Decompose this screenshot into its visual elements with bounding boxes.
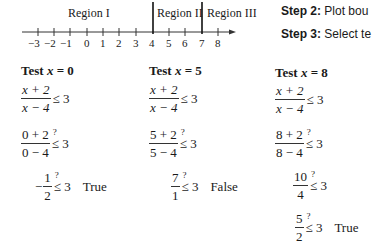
tick-label: −1 [60,37,72,49]
step-2-text: Plot bou [324,4,368,18]
step-3: Step 3: Select te [281,27,371,41]
test-column-x8: Test x = 8 x + 2x − 4 ≤ 3 8 + 28 − 4 ?≤ … [275,65,374,244]
inequality-substituted: 0 + 20 − 4 ?≤ 3 [21,127,141,160]
test-title: Test x = 0 [21,63,141,79]
tick-label: 1 [100,37,106,49]
verdict-true: True [334,220,358,236]
step-3-text: Select te [324,27,371,41]
verdict-false: False [210,179,237,195]
tick-label: 4 [149,37,155,49]
tick-label: 8 [215,37,221,49]
region-label-3: Region III [207,6,257,21]
inequality-reduced: 52 ?≤ 3 True [295,211,374,244]
step-2-label: Step 2: [281,4,321,18]
verdict-true: True [83,179,107,195]
test-column-x5: Test x = 5 x + 2x − 4 ≤ 3 5 + 25 − 4 ?≤ … [149,63,269,203]
inequality-original: x + 2x − 4 ≤ 3 [21,82,141,115]
inequality-original: x + 2x − 4 ≤ 3 [275,83,374,116]
tick-label: 2 [116,37,122,49]
tick-label: 5 [166,37,172,49]
inequality-original: x + 2x − 4 ≤ 3 [149,82,269,115]
tick-label: 6 [182,37,188,49]
test-column-x0: Test x = 0 x + 2x − 4 ≤ 3 0 + 20 − 4 ?≤ … [21,63,141,203]
inequality-simplified: 71 ?≤ 3 False [171,170,269,203]
tick-label: −2 [44,37,56,49]
inequality-substituted: 8 + 28 − 4 ?≤ 3 [275,127,374,160]
tick-label: 0 [84,37,90,49]
number-line: Region I Region II Region III −3 −2 −1 0… [0,0,240,56]
inequality-simplified: 104 ?≤ 3 [293,169,374,202]
test-title: Test x = 8 [275,65,374,81]
tick-label: −3 [28,37,40,49]
step-2: Step 2: Plot bou [281,4,368,18]
step-3-label: Step 3: [281,27,321,41]
region-label-1: Region I [68,6,110,21]
inequality-substituted: 5 + 25 − 4 ?≤ 3 [149,127,269,160]
inequality-simplified: − 12 ?≤ 3 True [35,170,141,203]
tick-label: 3 [133,37,139,49]
tick-label: 7 [199,37,205,49]
region-label-2: Region II [157,6,203,21]
test-title: Test x = 5 [149,63,269,79]
